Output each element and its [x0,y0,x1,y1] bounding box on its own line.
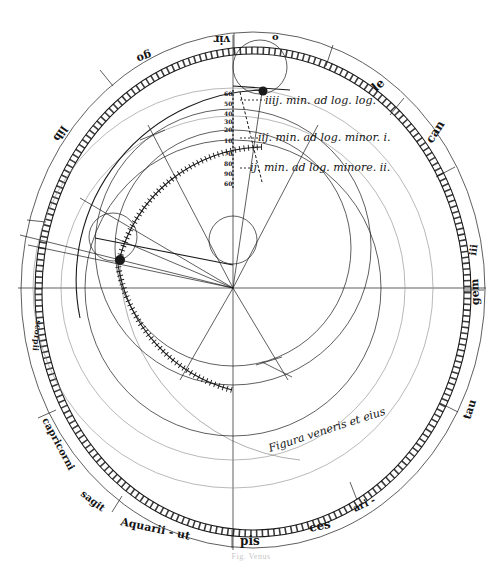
scale-number: 60 [224,180,232,187]
rim-label: lib [50,123,70,144]
scale-number: 30 [224,118,232,125]
scale-number: 70 [224,150,232,157]
figure-caption: Fig. Venus [0,552,502,561]
annotation-line-1: iiij. min. ad log. log. [265,94,376,107]
planet-marker-left [115,255,125,265]
deferent-arc [76,90,300,460]
epicycle-top [233,40,290,96]
scale-number: 10 [224,137,232,144]
axes [18,35,486,550]
outer-zodiac-ring [21,32,485,548]
zodiac-labels: Aquarii - ut pis ces ari - tau gem iii c… [31,31,482,548]
rim-label: go [135,48,154,65]
annotations: iiij. min. ad log. log. iij. min. ad log… [240,94,390,174]
rim-label: capricorni [40,416,77,472]
rim-label: vir [213,33,231,46]
scale-number: 40 [224,110,232,117]
rim-label: can [423,118,448,146]
rim-label: Aquarii - ut [118,515,192,543]
rim-label: sagit [79,488,108,514]
scale-number: 90 [224,170,232,177]
rim-label: o [272,31,279,42]
scale-number: 60 [224,90,232,97]
annotation-line-3: ij. min. ad log. minore. ii. [250,161,390,174]
rim-label: gem [468,278,482,305]
rim-label: tau [460,398,479,421]
figure-inscription: Figura veneris et eius [266,405,387,455]
scale-number: 50 [224,100,232,107]
scale-number: 20 [224,126,232,133]
rim-label: pis [240,534,260,548]
rim-label: le [369,76,388,95]
annotation-line-2: iij. min. ad log. minor. i. [258,131,390,144]
scale-number: 80 [224,160,232,167]
zodiac-sign-dividers [27,33,484,548]
planetary-model-diagram: Aquarii - ut pis ces ari - tau gem iii c… [0,0,502,568]
rim-label: ces [308,517,332,535]
rim-label: iii [467,243,480,256]
